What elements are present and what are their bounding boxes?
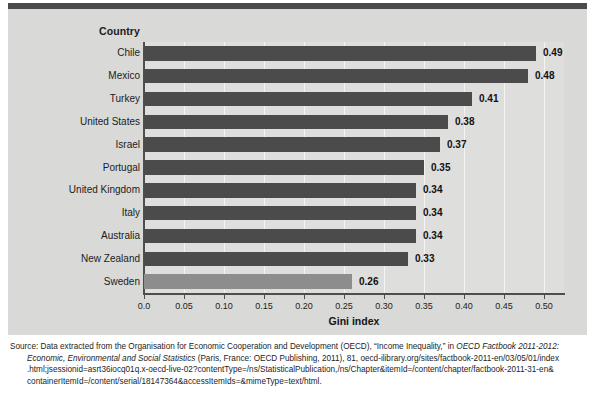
x-tick-label: 0.20 [284, 301, 324, 311]
x-tick [504, 294, 505, 299]
x-tick [424, 294, 425, 299]
category-label: United Kingdom [28, 185, 140, 195]
category-label: Israel [28, 140, 140, 150]
source-line-3: .html;jsessionid=asrt36iocq01q.x-oecd-li… [10, 364, 590, 376]
source-line-1-italic: OECD Factbook 2011-2012: [456, 342, 559, 351]
category-label: United States [28, 117, 140, 127]
bar-value-label: 0.37 [447, 140, 466, 150]
x-tick [184, 294, 185, 299]
x-tick-label: 0.05 [164, 301, 204, 311]
bar-value-label: 0.41 [479, 94, 498, 104]
x-tick-label: 0.50 [524, 301, 564, 311]
x-axis-line [143, 293, 565, 295]
bar-value-label: 0.34 [423, 185, 442, 195]
source-line-1: Source: Data extracted from the Organisa… [10, 341, 590, 353]
chart-screenshot: Country 0.00.050.100.150.200.250.300.350… [0, 0, 595, 401]
x-tick [304, 294, 305, 299]
x-tick [384, 294, 385, 299]
source-line-1-text: Source: Data extracted from the Organisa… [10, 342, 456, 351]
x-tick [144, 294, 145, 299]
bar-value-label: 0.34 [423, 231, 442, 241]
bar [144, 274, 352, 289]
bar-value-label: 0.38 [455, 117, 474, 127]
x-tick [344, 294, 345, 299]
source-line-2-text: (Paris, France: OECD Publishing, 2011), … [195, 354, 559, 363]
source-note: Source: Data extracted from the Organisa… [10, 341, 590, 387]
source-line-2: Economic, Environmental and Social Stati… [10, 353, 590, 365]
bar [144, 69, 528, 84]
bar-value-label: 0.34 [423, 208, 442, 218]
bar [144, 92, 472, 107]
bar-value-label: 0.33 [415, 254, 434, 264]
x-axis-title: Gini index [144, 315, 564, 327]
x-tick-label: 0.45 [484, 301, 524, 311]
y-axis-title: Country [30, 25, 140, 37]
x-tick-label: 0.10 [204, 301, 244, 311]
bar-chart: Country 0.00.050.100.150.200.250.300.350… [8, 9, 587, 335]
x-tick-label: 0.0 [124, 301, 164, 311]
x-tick [464, 294, 465, 299]
x-tick [544, 294, 545, 299]
bar [144, 137, 440, 152]
category-label: Sweden [28, 277, 140, 287]
bar [144, 206, 416, 221]
bar [144, 252, 408, 267]
bar-value-label: 0.48 [535, 71, 554, 81]
bar [144, 183, 416, 198]
bar-value-label: 0.49 [543, 48, 562, 58]
category-label: New Zealand [28, 254, 140, 264]
bar-value-label: 0.35 [431, 163, 450, 173]
category-label: Australia [28, 231, 140, 241]
category-label: Portugal [28, 163, 140, 173]
x-tick-label: 0.30 [364, 301, 404, 311]
x-tick-label: 0.40 [444, 301, 484, 311]
bar-value-label: 0.26 [359, 277, 378, 287]
figure-panel: Country 0.00.050.100.150.200.250.300.350… [8, 3, 587, 335]
x-tick-label: 0.25 [324, 301, 364, 311]
category-label: Italy [28, 208, 140, 218]
category-label: Chile [28, 48, 140, 58]
category-label: Turkey [28, 94, 140, 104]
bar [144, 115, 448, 130]
bar [144, 160, 424, 175]
bar [144, 46, 536, 61]
source-line-2-italic: Economic, Environmental and Social Stati… [27, 354, 195, 363]
x-tick [264, 294, 265, 299]
bar [144, 229, 416, 244]
x-tick-label: 0.15 [244, 301, 284, 311]
source-line-4: containerItemId=/content/serial/18147364… [10, 376, 590, 388]
x-tick [224, 294, 225, 299]
category-label: Mexico [28, 71, 140, 81]
x-tick-label: 0.35 [404, 301, 444, 311]
